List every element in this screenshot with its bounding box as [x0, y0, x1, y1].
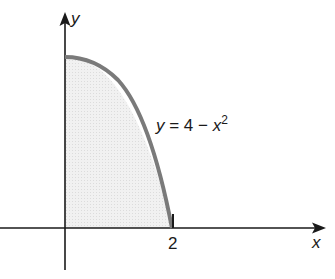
eq-middle: = 4 − [165, 116, 213, 135]
graph-figure: y x 2 y = 4 − x2 [0, 0, 335, 279]
y-axis-label: y [70, 9, 81, 28]
eq-exponent: 2 [221, 113, 228, 127]
x-axis-label: x [311, 233, 321, 252]
eq-x: x [212, 116, 222, 135]
curve-equation-label: y = 4 − x2 [155, 113, 228, 135]
x-tick-label-2: 2 [168, 234, 177, 253]
